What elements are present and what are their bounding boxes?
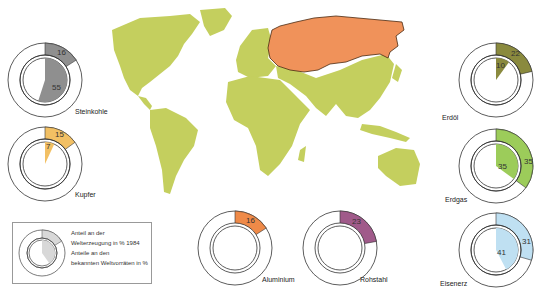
donut-erdoel: 22 10 (456, 40, 536, 120)
indonesia (360, 124, 410, 142)
donut-kupfer: 15 7 (5, 124, 85, 204)
legend-production-line2: Welterzeugung in % 1984 (71, 239, 140, 247)
donut-eisenerz: 31 41 (456, 210, 536, 290)
madagascar (298, 146, 306, 162)
south-america (150, 108, 198, 194)
japan (392, 64, 402, 82)
label-erdoel: Erdöl (442, 114, 458, 121)
label-steinkohle: Steinkohle (75, 108, 108, 115)
label-kupfer: Kupfer (75, 191, 96, 198)
central-america (138, 96, 152, 110)
label-eisenerz: Eisenerz (440, 280, 467, 287)
legend-production-line1: Anteil an der (71, 229, 105, 237)
rohstahl-production-value: 23 (352, 217, 361, 226)
aluminium-production-value: 16 (246, 216, 255, 225)
kupfer-reserves-value: 7 (46, 142, 51, 151)
erdgas-reserves-value: 35 (498, 162, 507, 171)
steinkohle-production-value: 16 (57, 48, 66, 57)
north-america (112, 14, 200, 96)
africa (226, 76, 310, 176)
kupfer-production-value: 15 (55, 130, 64, 139)
donut-steinkohle: 16 55 (5, 40, 85, 120)
greenland (200, 8, 232, 36)
steinkohle-reserves-value: 55 (52, 83, 61, 92)
eisenerz-production-value: 31 (522, 237, 531, 246)
erdoel-reserves-value: 10 (496, 61, 505, 70)
erdgas-production-value: 35 (524, 157, 533, 166)
legend-donut-icon (17, 228, 67, 278)
label-aluminium: Aluminium (262, 276, 295, 283)
australia (378, 148, 420, 186)
donut-erdgas: 35 35 (456, 126, 536, 206)
eisenerz-reserves-value: 41 (497, 248, 506, 257)
legend-reserves-line1: Anteile an den (71, 249, 109, 257)
world-map (100, 0, 420, 200)
erdoel-production-value: 22 (511, 49, 520, 58)
legend: Anteil an der Welterzeugung in % 1984 An… (12, 222, 152, 284)
label-erdgas: Erdgas (445, 196, 467, 203)
legend-reserves-line2: bekannten Weltvorräten in % (71, 259, 148, 267)
label-rohstahl: Rohstahl (360, 276, 388, 283)
